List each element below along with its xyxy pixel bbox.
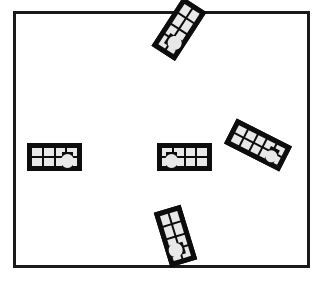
tile-body <box>27 143 82 171</box>
tile-cell <box>173 223 184 235</box>
tile-cell <box>197 158 207 166</box>
tile-cell <box>186 158 196 166</box>
diagram-canvas <box>0 0 325 290</box>
center-tile[interactable] <box>157 143 212 171</box>
tile-cell <box>32 148 42 156</box>
tile-knob <box>165 154 178 167</box>
tile-body <box>157 143 212 171</box>
tile-cell <box>197 148 207 156</box>
tile-cell <box>186 148 196 156</box>
left-tile[interactable] <box>27 143 82 171</box>
tile-cell <box>32 158 42 166</box>
tile-cell <box>44 158 54 166</box>
tile-cell <box>160 214 171 226</box>
tile-cell <box>164 226 175 238</box>
tile-cell <box>44 148 54 156</box>
tile-cell <box>170 211 181 223</box>
tile-knob <box>61 154 74 167</box>
